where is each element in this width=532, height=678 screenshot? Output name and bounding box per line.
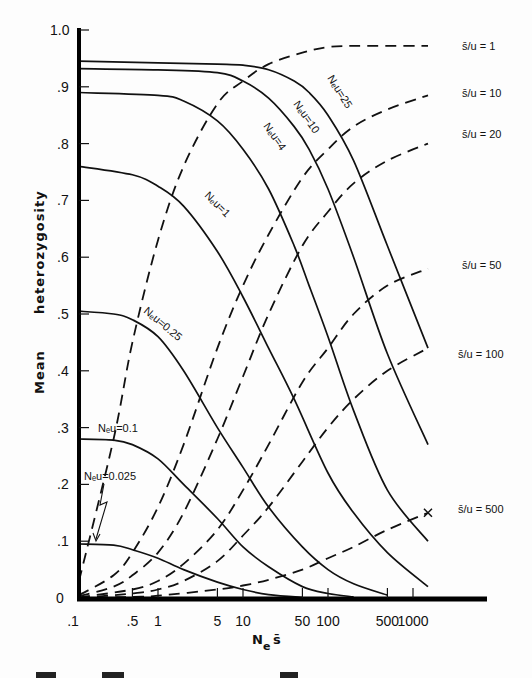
x-tick-label: 10: [235, 613, 251, 629]
x-marker-icon: [424, 509, 432, 517]
series-label-s-u-10: s̄/u = 10: [462, 87, 501, 99]
x-tick-label: 100: [316, 613, 340, 629]
series-label-s-u-500: s̄/u = 500: [458, 503, 504, 515]
y-tick-label: 0: [56, 590, 64, 606]
y-tick-label: .5: [57, 306, 69, 322]
curves-group: [79, 46, 428, 598]
series-neu-1: [79, 166, 428, 586]
y-axis-title-word1: Mean: [32, 350, 47, 394]
x-tick-label: 1: [154, 613, 162, 629]
x-tick-label: 5: [214, 613, 222, 629]
x-axis-title-sub: e: [263, 640, 271, 653]
x-tick-label: 500: [376, 613, 400, 629]
x-tick-label: .5: [127, 613, 139, 629]
y-tick-label: .4: [57, 363, 69, 379]
caption-fragment: [30, 664, 510, 678]
series-label-s-u-100: s̄/u = 100: [458, 348, 504, 360]
x-tick-label: 50: [295, 613, 311, 629]
heterozygosity-chart: 0.1.2.3.4.5.6.7.8.91.0.1.515105010050010…: [0, 0, 532, 678]
y-tick-label: .9: [57, 79, 69, 95]
series-neu-25: [79, 61, 428, 348]
series-label-s-u-20: s̄/u = 20: [462, 128, 501, 140]
curve-label-neu-1: Nₑu=1: [203, 189, 233, 219]
series-neu-0-25: [79, 311, 387, 595]
y-tick-label: 1.0: [50, 22, 70, 38]
x-axis-title-s: s̄: [273, 632, 282, 647]
y-tick-label: .8: [57, 136, 69, 152]
curve-labels-group: Nₑu=25Nₑu=10Nₑu=4Nₑu=1Nₑu=0.25Nₑu=0.1Nₑu…: [84, 40, 504, 541]
y-tick-label: .7: [57, 192, 69, 208]
series-neu-0-025: [79, 544, 302, 597]
x-tick-label: .1: [67, 613, 79, 629]
curve-label-neu-0-1: Nₑu=0.1: [98, 422, 138, 434]
y-axis-title-word2: heterozygosity: [32, 190, 47, 314]
series-s-u-20: [79, 144, 428, 597]
curve-label-neu-4: Nₑu=4: [261, 120, 288, 152]
curve-label-neu-0-025: Nₑu=0.025: [84, 470, 136, 482]
x-tick-label: 1000: [397, 613, 428, 629]
series-neu-10: [79, 69, 428, 445]
x-axis-title: N e s̄: [252, 632, 282, 653]
series-s-u-1: [79, 46, 428, 581]
y-tick-label: .2: [57, 476, 69, 492]
series-label-s-u-50: s̄/u = 50: [462, 259, 501, 271]
curve-label-neu-0-25: Nₑu=0.25: [142, 304, 185, 343]
axes-group: 0.1.2.3.4.5.6.7.8.91.0.1.515105010050010…: [50, 22, 487, 629]
series-label-s-u-1: s̄/u = 1: [462, 40, 495, 52]
caption-fragment-glyphs: [30, 664, 510, 678]
y-axis-title: Mean heterozygosity: [32, 190, 47, 394]
series-neu-0-1: [79, 439, 354, 597]
y-tick-label: .6: [57, 249, 69, 265]
y-tick-label: .3: [57, 420, 69, 436]
y-tick-label: .1: [57, 533, 69, 549]
curve-label-neu-25: Nₑu=25: [325, 73, 355, 111]
